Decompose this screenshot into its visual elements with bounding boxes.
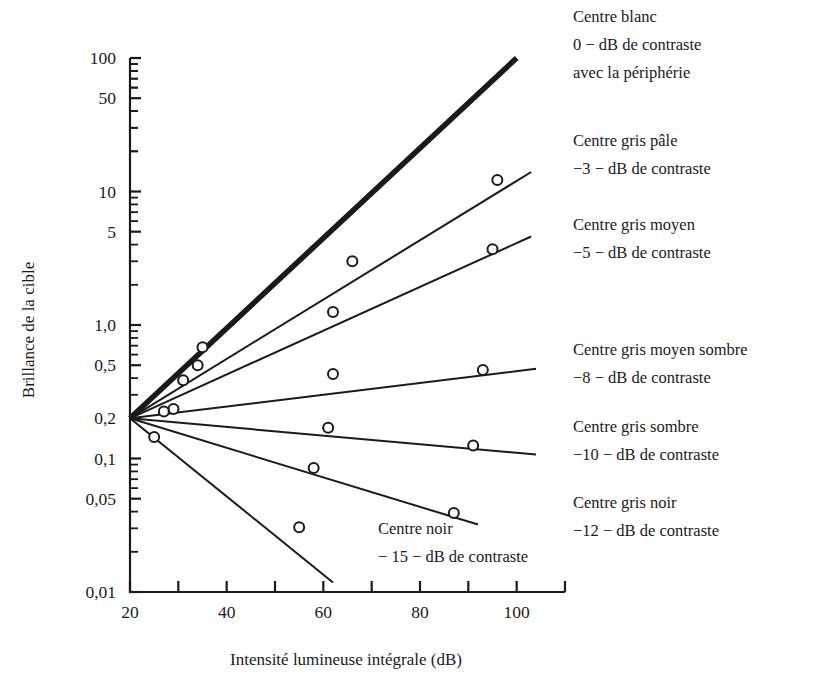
data-point-marker bbox=[149, 432, 159, 442]
y-tick-label: 50 bbox=[99, 88, 117, 108]
series-annotation-4: Centre gris moyen sombre bbox=[573, 340, 748, 359]
data-point-marker bbox=[169, 404, 179, 414]
data-point-marker bbox=[488, 244, 498, 254]
x-tick-label: 20 bbox=[121, 602, 139, 622]
data-point-marker bbox=[449, 508, 459, 518]
x-tick-label: 80 bbox=[411, 602, 429, 622]
data-point-marker bbox=[468, 441, 478, 451]
data-point-marker bbox=[492, 175, 502, 185]
data-point-marker bbox=[193, 360, 203, 370]
x-tick-label: 100 bbox=[504, 602, 531, 622]
data-point-marker bbox=[159, 406, 169, 416]
series-annotation-2: −3 − dB de contraste bbox=[573, 159, 711, 178]
y-axis-title: Brillance de la cible bbox=[19, 262, 38, 398]
x-tick-label: 40 bbox=[218, 602, 236, 622]
series-annotation-5: −10 − dB de contraste bbox=[573, 445, 719, 464]
series-annotation-7: Centre noir bbox=[378, 519, 453, 538]
chart-figure: 20406080100100501051,00,50,20,10,050,01 … bbox=[0, 0, 828, 679]
series-annotation-1: 0 − dB de contraste bbox=[573, 35, 701, 54]
y-tick-label: 10 bbox=[99, 182, 117, 202]
data-point-marker bbox=[294, 522, 304, 532]
series-annotation-6: −12 − dB de contraste bbox=[573, 521, 719, 540]
brillance-cible-line-chart: 20406080100100501051,00,50,20,10,050,01 … bbox=[0, 0, 828, 679]
series-annotation-7: − 15 − dB de contraste bbox=[378, 547, 528, 566]
x-axis-title: Intensité lumineuse intégrale (dB) bbox=[230, 650, 462, 669]
y-tick-label: 100 bbox=[90, 48, 117, 68]
data-point-marker bbox=[478, 365, 488, 375]
data-point-marker bbox=[328, 369, 338, 379]
series-annotation-3: −5 − dB de contraste bbox=[573, 243, 711, 262]
y-tick-label: 0,05 bbox=[85, 489, 116, 509]
y-tick-label: 1,0 bbox=[94, 315, 116, 335]
y-tick-label: 0,2 bbox=[94, 408, 116, 428]
data-point-marker bbox=[323, 423, 333, 433]
x-tick-label: 60 bbox=[315, 602, 333, 622]
data-point-marker bbox=[309, 463, 319, 473]
series-annotation-2: Centre gris pâle bbox=[573, 131, 677, 150]
y-tick-label: 5 bbox=[107, 222, 116, 242]
series-annotation-6: Centre gris noir bbox=[573, 493, 677, 512]
y-tick-label: 0,5 bbox=[94, 355, 116, 375]
data-point-marker bbox=[178, 375, 188, 385]
series-annotation-1: avec la périphérie bbox=[573, 63, 690, 82]
series-annotation-5: Centre gris sombre bbox=[573, 417, 699, 436]
y-tick-label: 0,01 bbox=[85, 582, 116, 602]
data-point-marker bbox=[198, 342, 208, 352]
series-annotation-4: −8 − dB de contraste bbox=[573, 368, 711, 387]
series-annotation-3: Centre gris moyen bbox=[573, 215, 695, 234]
data-point-marker bbox=[328, 307, 338, 317]
data-point-marker bbox=[347, 256, 357, 266]
y-tick-label: 0,1 bbox=[94, 449, 116, 469]
series-annotation-1: Centre blanc bbox=[573, 7, 657, 26]
